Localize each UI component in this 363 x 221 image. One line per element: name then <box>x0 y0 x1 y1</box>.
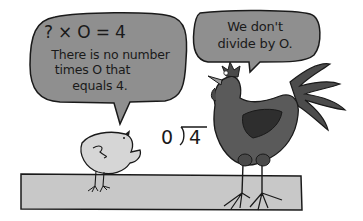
left-bubble-line-3: equals 4. <box>40 80 160 93</box>
dividend: 4 <box>185 128 205 147</box>
equation-text: ? × O = 4 <box>44 24 164 41</box>
left-bubble-line-1: There is no number <box>38 49 183 62</box>
illustration: ? × O = 4 There is no number times O tha… <box>0 0 363 221</box>
right-bubble-line-2: divide by O. <box>200 37 310 50</box>
divisor: 0 <box>157 128 177 147</box>
left-bubble-line-2: times O that <box>30 64 155 77</box>
right-bubble-line-1: We don't <box>200 20 310 33</box>
